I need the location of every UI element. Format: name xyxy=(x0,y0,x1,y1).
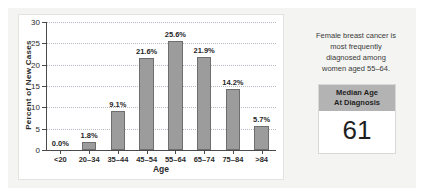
x-tick-label: 65–74 xyxy=(194,155,215,164)
bar-slot xyxy=(197,22,211,150)
bar-slot xyxy=(168,22,182,150)
median-age-header-line1: Median Age xyxy=(319,88,395,98)
bar[interactable] xyxy=(82,142,96,150)
x-axis-line xyxy=(46,150,276,151)
bar-value-label: 9.1% xyxy=(109,100,126,109)
side-note: Female breast cancer is most frequently … xyxy=(300,30,412,74)
y-tick-label: 0 xyxy=(36,146,40,155)
chart-screenshot: Percent of New Cases 051015202530 0.0%1.… xyxy=(0,0,424,196)
bar-slot xyxy=(111,22,125,150)
y-tick-label: 10 xyxy=(31,103,40,112)
bar-value-label: 5.7% xyxy=(253,115,270,124)
x-tick xyxy=(147,150,148,154)
x-tick xyxy=(233,150,234,154)
x-tick-label: 20–34 xyxy=(79,155,100,164)
bar[interactable] xyxy=(226,89,240,150)
median-age-value: 61 xyxy=(319,111,395,153)
bar-slot xyxy=(139,22,153,150)
x-tick xyxy=(89,150,90,154)
x-tick-label: <20 xyxy=(54,155,67,164)
x-tick xyxy=(204,150,205,154)
bar-slot xyxy=(53,22,67,150)
median-age-header-line2: At Diagnosis xyxy=(319,98,395,108)
x-tick xyxy=(175,150,176,154)
bar-value-label: 21.9% xyxy=(193,46,214,55)
side-note-line: women aged 55–64. xyxy=(300,63,412,74)
x-tick-label: 55–64 xyxy=(165,155,186,164)
side-note-line: Female breast cancer is xyxy=(300,30,412,41)
y-tick-label: 5 xyxy=(36,124,40,133)
median-age-box: Median Age At Diagnosis 61 xyxy=(318,84,396,154)
x-tick-label: 45–54 xyxy=(136,155,157,164)
x-tick xyxy=(60,150,61,154)
side-note-line: most frequently xyxy=(300,41,412,52)
x-tick-label: 35–44 xyxy=(107,155,128,164)
bar-value-label: 1.8% xyxy=(81,131,98,140)
y-tick-label: 30 xyxy=(31,18,40,27)
bar-value-label: 14.2% xyxy=(222,78,243,87)
bar-value-label: 21.6% xyxy=(136,47,157,56)
bar[interactable] xyxy=(254,126,268,150)
bar[interactable] xyxy=(111,111,125,150)
x-axis-title: Age xyxy=(46,164,276,174)
bar-value-label: 0.0% xyxy=(52,139,69,148)
bar-series: 0.0%1.8%9.1%21.6%25.6%21.9%14.2%5.7% xyxy=(46,22,276,150)
y-tick-label: 20 xyxy=(31,60,40,69)
plot-area: 051015202530 0.0%1.8%9.1%21.6%25.6%21.9%… xyxy=(46,22,276,150)
y-tick-label: 15 xyxy=(31,82,40,91)
bar-value-label: 25.6% xyxy=(165,30,186,39)
bar[interactable] xyxy=(197,57,211,150)
bar[interactable] xyxy=(139,58,153,150)
x-tick xyxy=(118,150,119,154)
median-age-header: Median Age At Diagnosis xyxy=(319,85,395,111)
bar[interactable] xyxy=(168,41,182,150)
y-tick-label: 25 xyxy=(31,39,40,48)
side-note-line: diagnosed among xyxy=(300,52,412,63)
bar-slot xyxy=(254,22,268,150)
x-tick-label: 75–84 xyxy=(222,155,243,164)
x-tick xyxy=(262,150,263,154)
x-tick-label: >84 xyxy=(255,155,268,164)
